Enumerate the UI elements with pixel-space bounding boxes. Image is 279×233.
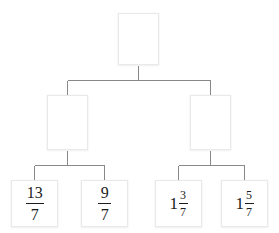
numerator-1: 13 <box>26 184 44 201</box>
whole-number-part-3: 1 <box>170 195 179 212</box>
denominator-3: 7 <box>179 206 187 219</box>
fraction-1: 13 7 <box>26 184 44 223</box>
numerator-4: 5 <box>245 189 253 202</box>
tree-node-mid-right[interactable] <box>190 95 231 150</box>
tree-leaf-node-4[interactable]: 1 5 7 <box>221 180 268 227</box>
numerator-3: 3 <box>179 189 187 202</box>
fraction-bar-2 <box>98 203 111 204</box>
fraction-expression-4: 1 5 7 <box>236 189 254 219</box>
fraction-3: 3 7 <box>179 189 188 219</box>
tree-leaf-node-3[interactable]: 1 3 7 <box>155 180 202 227</box>
tree-node-root[interactable] <box>118 13 159 65</box>
tree-node-mid-left[interactable] <box>47 95 88 150</box>
fraction-bar-3 <box>179 203 188 204</box>
tree-leaf-node-2[interactable]: 9 7 <box>81 180 128 227</box>
numerator-2: 9 <box>100 184 110 201</box>
denominator-1: 7 <box>30 206 40 223</box>
fraction-bar-1 <box>26 203 44 204</box>
tree-leaf-node-1[interactable]: 13 7 <box>11 180 58 227</box>
whole-number-part-4: 1 <box>236 195 245 212</box>
fraction-expression-1: 13 7 <box>25 184 44 223</box>
binary-tree-diagram: 13 7 9 7 1 3 7 1 <box>0 0 279 233</box>
fraction-2: 9 7 <box>98 184 111 223</box>
fraction-bar-4 <box>245 203 254 204</box>
fraction-expression-3: 1 3 7 <box>170 189 188 219</box>
denominator-4: 7 <box>245 206 253 219</box>
fraction-expression-2: 9 7 <box>98 184 112 223</box>
fraction-4: 5 7 <box>245 189 254 219</box>
denominator-2: 7 <box>100 206 110 223</box>
